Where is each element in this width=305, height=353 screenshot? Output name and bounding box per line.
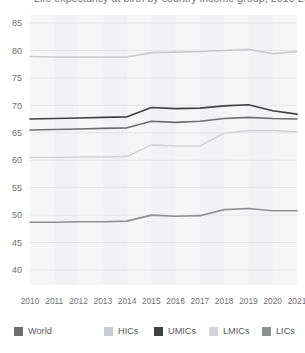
chart-canvas: 40455055606570758085 [0, 13, 305, 303]
legend-label: LICs [276, 327, 295, 336]
legend-item-lics[interactable]: LICs [262, 327, 295, 336]
x-axis-tick-label: 2017 [191, 296, 210, 306]
chart-title-clipped: Life expectancy at birth by country inco… [0, 0, 305, 13]
plot-area: 40455055606570758085 [0, 13, 305, 303]
life-expectancy-line-chart: Life expectancy at birth by country inco… [0, 0, 305, 353]
plot-band [248, 15, 272, 285]
legend-item-umics[interactable]: UMICs [154, 327, 196, 336]
legend-label: HICs [118, 327, 138, 336]
y-axis-tick-label: 85 [12, 18, 22, 28]
x-axis-tick-label: 2021 [288, 296, 305, 306]
plot-band [103, 15, 127, 285]
legend-label: UMICs [168, 327, 196, 336]
page-title: Life expectancy at birth by country inco… [34, 0, 305, 4]
y-axis-tick-label: 40 [12, 265, 22, 275]
y-axis-tick-label: 45 [12, 238, 22, 248]
x-axis-tick-label: 2019 [239, 296, 258, 306]
legend-item-lmics[interactable]: LMICs [209, 327, 250, 336]
legend-label: LMICs [223, 327, 250, 336]
x-axis-tick-label: 2018 [215, 296, 234, 306]
plot-band [151, 15, 175, 285]
y-axis-tick-label: 65 [12, 128, 22, 138]
legend-swatch-icon [209, 327, 218, 336]
x-axis-tick-label: 2014 [118, 296, 137, 306]
y-axis-tick-label: 70 [12, 101, 22, 111]
legend-swatch-icon [154, 327, 163, 336]
plot-band [54, 15, 78, 285]
y-axis-tick-label: 50 [12, 210, 22, 220]
y-axis-tick-label: 75 [12, 73, 22, 83]
x-axis-tick-label: 2015 [142, 296, 161, 306]
y-axis-tick-label: 55 [12, 183, 22, 193]
x-axis-tick-label: 2020 [263, 296, 282, 306]
legend-label: World [28, 327, 52, 336]
y-axis-tick-label: 80 [12, 46, 22, 56]
x-axis-tick-label: 2010 [21, 296, 40, 306]
legend-swatch-icon [104, 327, 113, 336]
x-axis-labels: 2010201120122013201420152016201720182019… [0, 296, 305, 312]
legend-swatch-icon [262, 327, 271, 336]
x-axis-tick-label: 2013 [93, 296, 112, 306]
legend-swatch-icon [14, 327, 23, 336]
plot-band [200, 15, 224, 285]
legend-item-hics[interactable]: HICs [104, 327, 138, 336]
x-axis-tick-label: 2012 [69, 296, 88, 306]
y-axis-tick-label: 60 [12, 155, 22, 165]
legend-item-world[interactable]: World [14, 327, 52, 336]
chart-legend: WorldHICsUMICsLMICsLICs [0, 327, 305, 347]
x-axis-tick-label: 2016 [166, 296, 185, 306]
x-axis-tick-label: 2011 [45, 296, 63, 306]
